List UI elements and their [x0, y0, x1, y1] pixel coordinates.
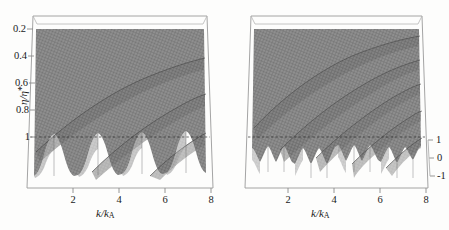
y-axis-label-text: η/η: [17, 91, 29, 105]
x-tick-label-1: 4: [111, 194, 127, 205]
y-tick-label-0: 0.2: [2, 23, 26, 34]
x-tick-label-0: 2: [280, 194, 296, 205]
y-tick-label-4: 1: [6, 131, 30, 142]
y-tick-label-2: 0.6: [4, 77, 28, 88]
plot-panel-right: 1 0 -1 2 4 6 8 k/kA: [224, 0, 448, 230]
x-axis-label-left: k/kA: [96, 207, 115, 220]
surface-geometry-left: [30, 29, 210, 180]
x-axis-sub: A: [109, 211, 115, 220]
y-axis-label-left: η/η*: [16, 86, 29, 105]
figure-container: η/η* 0.2 0.4 0.6 0.8 1 2 4 6 8 k/kA: [0, 0, 449, 230]
x-axis-label-right: k/kA: [311, 207, 330, 220]
x-tick-label-2: 6: [372, 194, 388, 205]
y-tick-label-1: 0.4: [3, 50, 27, 61]
r-tick-label-2: -1: [437, 170, 449, 181]
r-tick-label-1: 0: [437, 152, 449, 163]
x-tick-label-0: 2: [65, 194, 81, 205]
x-tick-label-3: 8: [203, 194, 219, 205]
x-tick-label-3: 8: [418, 194, 434, 205]
x-tick-label-2: 6: [157, 194, 173, 205]
plot-panel-left: η/η* 0.2 0.4 0.6 0.8 1 2 4 6 8 k/kA: [0, 0, 224, 230]
x-tick-label-1: 4: [326, 194, 342, 205]
x-axis-sub: A: [324, 211, 330, 220]
y-tick-label-3: 0.8: [5, 104, 29, 115]
r-tick-label-0: 1: [436, 134, 449, 145]
surface-geometry-right: [248, 29, 425, 178]
